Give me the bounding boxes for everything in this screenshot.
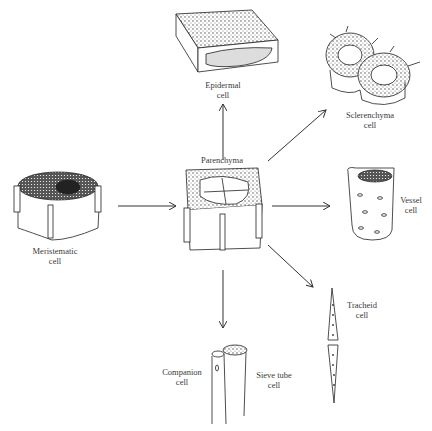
- tracheid-label-line1: Tracheid: [340, 300, 384, 310]
- tracheid-label-line2: cell: [340, 310, 384, 320]
- vessel-cell-illustration: [348, 168, 394, 241]
- meristematic-label-line2: cell: [20, 256, 90, 266]
- epidermal-cell-illustration: [176, 10, 278, 72]
- phloem-illustration: [212, 345, 247, 424]
- arrow-to-sclerenchyma: [268, 110, 326, 161]
- sieve-tube-label-line1: Sieve tube: [248, 370, 300, 380]
- epidermal-label-line2: cell: [196, 90, 250, 100]
- vessel-label-line2: cell: [392, 205, 430, 215]
- label-sclerenchyma: Sclerenchyma cell: [330, 110, 410, 130]
- arrow-to-tracheid: [268, 245, 313, 287]
- label-parenchyma: Parenchyma: [190, 155, 254, 165]
- label-vessel: Vessel cell: [392, 195, 430, 215]
- sieve-tube-label-line2: cell: [248, 380, 300, 390]
- tracheid-cell-illustration: [328, 288, 338, 403]
- label-companion: Companion cell: [156, 367, 208, 387]
- parenchyma-cell-illustration: [184, 168, 262, 250]
- diagram-canvas: [0, 0, 432, 431]
- meristematic-cell-illustration: [14, 172, 101, 240]
- companion-label-line2: cell: [156, 377, 208, 387]
- sclerenchyma-label-line2: cell: [330, 120, 410, 130]
- sclerenchyma-cell-illustration: [326, 26, 420, 105]
- label-epidermal: Epidermal cell: [196, 80, 250, 100]
- parenchyma-label: Parenchyma: [190, 155, 254, 165]
- epidermal-label-line1: Epidermal: [196, 80, 250, 90]
- label-sieve-tube: Sieve tube cell: [248, 370, 300, 390]
- label-tracheid: Tracheid cell: [340, 300, 384, 320]
- label-meristematic: Meristematic cell: [20, 246, 90, 266]
- vessel-label-line1: Vessel: [392, 195, 430, 205]
- companion-label-line1: Companion: [156, 367, 208, 377]
- meristematic-label-line1: Meristematic: [20, 246, 90, 256]
- sclerenchyma-label-line1: Sclerenchyma: [330, 110, 410, 120]
